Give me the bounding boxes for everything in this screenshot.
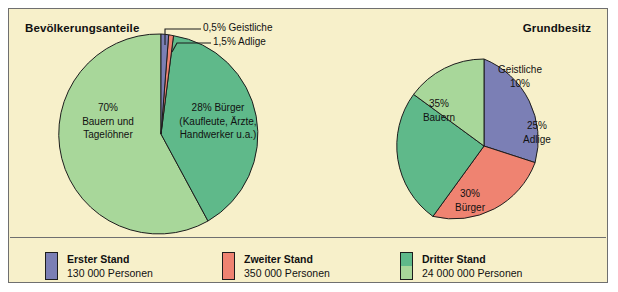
legend-text-erster-stand: Erster Stand 130 000 Personen xyxy=(67,252,153,280)
legend-name-zweiter-stand: Zweiter Stand xyxy=(244,252,330,266)
legend-swatch-dritter-stand xyxy=(400,252,413,280)
legend-name-dritter-stand: Dritter Stand xyxy=(422,252,522,266)
pie-label-buerger-left-line3: Handwerker u.a.) xyxy=(159,128,277,142)
pie-label-buerger-right-line2: Bürger xyxy=(439,201,501,215)
pie-label-bauern-left-line1: 70% xyxy=(53,101,163,115)
legend-swatch-zweiter-stand xyxy=(222,252,235,280)
pie-label-bauern-right-line2: Bauern xyxy=(394,111,484,125)
pie-label-geistliche-right: Geistliche 10% xyxy=(487,63,553,90)
legend-swatch-dritter-stand-bottom xyxy=(401,266,412,279)
pie-label-bauern-right: 35% Bauern xyxy=(394,97,484,124)
legend-count-dritter-stand: 24 000 000 Personen xyxy=(422,266,522,280)
pie-label-bauern-left-line2: Bauern und xyxy=(53,115,163,129)
pie-label-buerger-left-line2: (Kaufleute, Ärzte, xyxy=(159,115,277,129)
legend-text-dritter-stand: Dritter Stand 24 000 000 Personen xyxy=(422,252,522,280)
pie-label-buerger-right-line1: 30% xyxy=(439,187,501,201)
pie-label-buerger-left: 28% Bürger (Kaufleute, Ärzte, Handwerker… xyxy=(159,101,277,142)
callout-label-adlige: 1,5% Adlige xyxy=(213,36,266,47)
chart-panel: Bevölkerungsanteile Grundbesitz 70% Baue… xyxy=(8,8,608,283)
pie-label-buerger-right: 30% Bürger xyxy=(439,187,501,214)
pie-label-buerger-left-line1: 28% Bürger xyxy=(159,101,277,115)
legend-swatch-dritter-stand-top xyxy=(401,253,412,266)
callout-label-geistliche: 0,5% Geistliche xyxy=(203,22,272,33)
pie-label-bauern-right-line1: 35% xyxy=(394,97,484,111)
legend-divider xyxy=(10,237,606,238)
pie-label-adlige-right-line2: Adlige xyxy=(507,133,567,147)
legend-text-zweiter-stand: Zweiter Stand 350 000 Personen xyxy=(244,252,330,280)
legend-count-erster-stand: 130 000 Personen xyxy=(67,266,153,280)
pie-label-bauern-left-line3: Tagelöhner xyxy=(53,128,163,142)
legend-name-erster-stand: Erster Stand xyxy=(67,252,153,266)
legend-count-zweiter-stand: 350 000 Personen xyxy=(244,266,330,280)
legend-swatch-erster-stand xyxy=(45,252,58,280)
page-title-right: Grundbesitz xyxy=(523,22,591,34)
pie-label-bauern-left: 70% Bauern und Tagelöhner xyxy=(53,101,163,142)
pie-label-geistliche-right-line2: 10% xyxy=(487,77,553,91)
pie-label-adlige-right: 25% Adlige xyxy=(507,119,567,146)
pie-label-geistliche-right-line1: Geistliche xyxy=(487,63,553,77)
pie-label-adlige-right-line1: 25% xyxy=(507,119,567,133)
